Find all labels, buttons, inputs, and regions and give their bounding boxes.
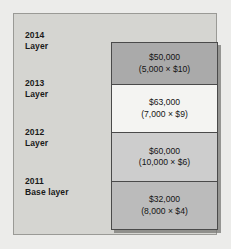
layer-label-2012: 2012 Layer [25,127,103,149]
layer-amount-2012: $60,000 [149,146,180,158]
figure-panel: 2014 Layer 2013 Layer 2012 Layer 2011 Ba… [13,13,217,235]
layer-name-2011: Base layer [25,187,103,198]
lifo-layer-stack: $50,000 (5,000 × $10) $63,000 (7,000 × $… [111,42,218,230]
layer-year-2014: 2014 [25,30,103,41]
layer-amount-2011: $32,000 [149,194,180,206]
layer-amount-2013: $63,000 [149,97,180,109]
layer-band-2012: $60,000 (10,000 × $6) [112,132,217,181]
layer-calc-2011: (8,000 × $4) [141,206,188,218]
layer-name-2013: Layer [25,89,103,100]
layer-label-2013: 2013 Layer [25,78,103,100]
layer-calc-2013: (7,000 × $9) [141,109,188,121]
layer-name-2014: Layer [25,41,103,52]
layer-amount-2014: $50,000 [149,52,180,64]
layer-band-2014: $50,000 (5,000 × $10) [112,43,217,84]
layer-label-2011: 2011 Base layer [25,176,103,198]
layer-band-2013: $63,000 (7,000 × $9) [112,84,217,132]
layer-year-2011: 2011 [25,176,103,187]
layer-calc-2012: (10,000 × $6) [139,157,190,169]
layer-band-2011: $32,000 (8,000 × $4) [112,181,217,229]
layer-name-2012: Layer [25,138,103,149]
layer-label-column: 2014 Layer 2013 Layer 2012 Layer 2011 Ba… [25,30,103,222]
layer-label-2014: 2014 Layer [25,30,103,52]
layer-calc-2014: (5,000 × $10) [139,64,190,76]
layer-year-2013: 2013 [25,78,103,89]
layer-year-2012: 2012 [25,127,103,138]
lifo-layers-figure: 2014 Layer 2013 Layer 2012 Layer 2011 Ba… [0,0,231,249]
